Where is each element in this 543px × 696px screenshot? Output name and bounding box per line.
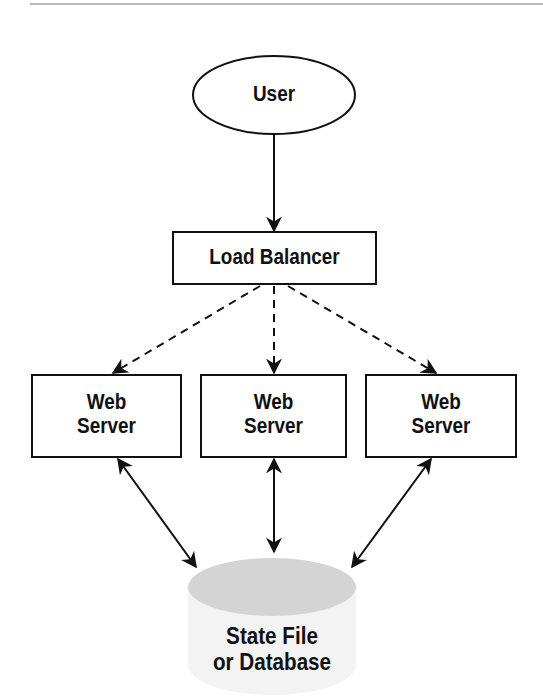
- web-server-2-label: Web Server: [211, 390, 336, 438]
- web-server-3-line1: Web: [377, 390, 506, 414]
- web-server-2-line2: Server: [211, 414, 336, 438]
- user-label: User: [231, 82, 317, 106]
- database-line1: State File: [186, 623, 358, 649]
- database-line2: or Database: [186, 649, 358, 675]
- edge-lb-to-ws1: [113, 286, 260, 373]
- edge-ws3-db: [352, 459, 431, 567]
- edge-ws1-db: [118, 459, 196, 567]
- web-server-3-line2: Server: [377, 414, 506, 438]
- edge-lb-to-ws3: [288, 286, 436, 373]
- web-server-3-label: Web Server: [377, 390, 506, 438]
- load-balancer-label: Load Balancer: [179, 245, 371, 269]
- web-server-1-label: Web Server: [42, 390, 170, 438]
- web-server-2-line1: Web: [211, 390, 336, 414]
- web-server-1-line2: Server: [42, 414, 170, 438]
- web-server-1-line1: Web: [42, 390, 170, 414]
- database-label: State File or Database: [186, 623, 358, 675]
